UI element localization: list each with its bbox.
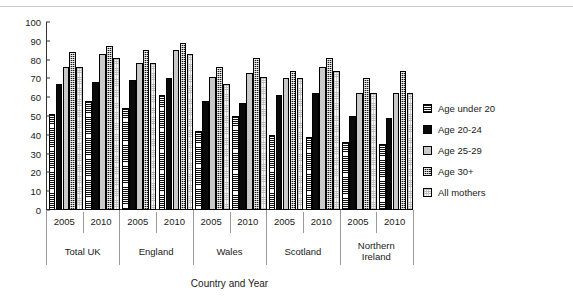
bar [319, 67, 326, 210]
legend-swatch-icon [423, 104, 432, 113]
bar [56, 84, 63, 210]
y-axis-tick-label: 30 [30, 148, 46, 159]
x-axis-year-label: 2010 [376, 214, 413, 229]
x-axis-country-label: Wales [193, 237, 266, 265]
y-axis-tick-label: 0 [36, 205, 46, 216]
y-axis-tick-label: 50 [30, 111, 46, 122]
top-divider [0, 6, 573, 7]
y-axis-tick-mark [46, 59, 50, 60]
bar [69, 52, 76, 210]
x-axis-year-label: 2010 [303, 214, 340, 229]
bar [312, 93, 319, 210]
bar [326, 58, 333, 210]
bar [49, 114, 56, 210]
bar [349, 116, 356, 210]
y-axis-tick-label: 70 [30, 73, 46, 84]
x-axis-title: Country and Year [46, 278, 413, 289]
bar [269, 135, 276, 210]
legend-item: Age under 20 [423, 98, 573, 119]
legend-item: Age 25-29 [423, 140, 573, 161]
bar [363, 78, 370, 210]
bar-group [49, 22, 83, 210]
bar-group [159, 22, 193, 210]
x-axis-year-label: 2010 [230, 214, 267, 229]
bar-group [195, 22, 229, 210]
legend: Age under 20Age 20-24Age 25-29Age 30+All… [423, 98, 573, 203]
x-axis-country-label: Total UK [46, 237, 119, 265]
bar [393, 93, 400, 210]
legend-swatch-icon [423, 167, 432, 176]
y-axis-tick-label: 10 [30, 186, 46, 197]
bar [260, 77, 267, 210]
y-axis-tick-mark [46, 172, 50, 173]
bar-group [342, 22, 376, 210]
bar [283, 78, 290, 210]
bar [386, 118, 393, 210]
bar [195, 131, 202, 210]
breastfeeding-bar-chart: % who breastfed initially Country and Ye… [0, 0, 573, 307]
legend-swatch-icon [423, 188, 432, 197]
bar [290, 71, 297, 210]
bar [76, 67, 83, 210]
bar-group [269, 22, 303, 210]
x-axis-year-label: 2005 [340, 214, 377, 229]
x-axis-country-label: England [119, 237, 192, 265]
bar-group [379, 22, 413, 210]
bar [63, 67, 70, 210]
bar [276, 95, 283, 210]
bar [342, 142, 349, 210]
y-axis-tick-mark [46, 134, 50, 135]
bar-group [122, 22, 156, 210]
bar [246, 73, 253, 210]
bar [122, 108, 129, 210]
bar [187, 54, 194, 210]
legend-item-label: Age 20-24 [438, 124, 482, 135]
legend-swatch-icon [423, 125, 432, 134]
legend-item: All mothers [423, 182, 573, 203]
bar [113, 58, 120, 210]
y-axis-tick-label: 80 [30, 54, 46, 65]
bar [106, 46, 113, 210]
bar-group [85, 22, 119, 210]
bar [333, 71, 340, 210]
bar [407, 93, 414, 210]
plot-area [46, 22, 413, 210]
y-axis-tick-mark [46, 97, 50, 98]
bar [180, 43, 187, 210]
x-axis-year-label: 2005 [193, 214, 230, 229]
bar [209, 77, 216, 210]
x-axis-year-label: 2010 [156, 214, 193, 229]
legend-item-label: Age 30+ [438, 166, 474, 177]
y-axis-tick-mark [46, 116, 50, 117]
bar [92, 82, 99, 210]
bar [143, 50, 150, 210]
x-axis-year-label: 2005 [46, 214, 83, 229]
y-axis-tick-label: 100 [25, 17, 46, 28]
legend-item: Age 30+ [423, 161, 573, 182]
bar [166, 78, 173, 210]
bar [173, 50, 180, 210]
y-axis-tick-mark [46, 22, 50, 23]
bar [356, 93, 363, 210]
bar [85, 101, 92, 210]
x-axis-year-label: 2005 [266, 214, 303, 229]
bar-group [306, 22, 340, 210]
bar [223, 84, 230, 210]
country-separator [413, 210, 414, 265]
bar [159, 95, 166, 210]
legend-item-label: Age 25-29 [438, 145, 482, 156]
y-axis-tick-label: 40 [30, 129, 46, 140]
legend-item-label: All mothers [438, 187, 486, 198]
bar [253, 58, 260, 210]
bar [400, 71, 407, 210]
y-axis-tick-label: 60 [30, 92, 46, 103]
bar [370, 93, 377, 210]
x-axis-year-label: 2005 [119, 214, 156, 229]
bar [379, 144, 386, 210]
bar [239, 103, 246, 210]
legend-swatch-icon [423, 146, 432, 155]
y-axis-tick-label: 20 [30, 167, 46, 178]
x-axis-country-label: NorthernIreland [340, 237, 413, 265]
y-axis-tick-mark [46, 40, 50, 41]
x-axis-country-label: Scotland [266, 237, 339, 265]
